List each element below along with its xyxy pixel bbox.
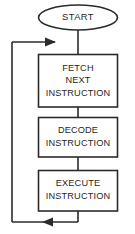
node-execute-label-line2: INSTRUCTION: [46, 191, 110, 201]
node-fetch-label-line2: NEXT: [65, 75, 90, 85]
arrow-head-loop-bottom-left: [42, 218, 53, 227]
node-fetch-label-line1: FETCH: [62, 63, 93, 73]
node-decode-label-line1: DECODE: [58, 125, 98, 135]
node-decode-label-line2: INSTRUCTION: [46, 138, 110, 148]
flowchart-canvas: START FETCH NEXT INSTRUCTION DECODE INST…: [0, 0, 135, 234]
node-execute-label-line1: EXECUTE: [56, 178, 100, 188]
arrow-head-loop-top-right: [45, 38, 56, 47]
flowchart-diagram: START FETCH NEXT INSTRUCTION DECODE INST…: [0, 0, 135, 234]
node-start-label: START: [62, 11, 94, 22]
node-fetch-label-line3: INSTRUCTION: [46, 88, 110, 98]
